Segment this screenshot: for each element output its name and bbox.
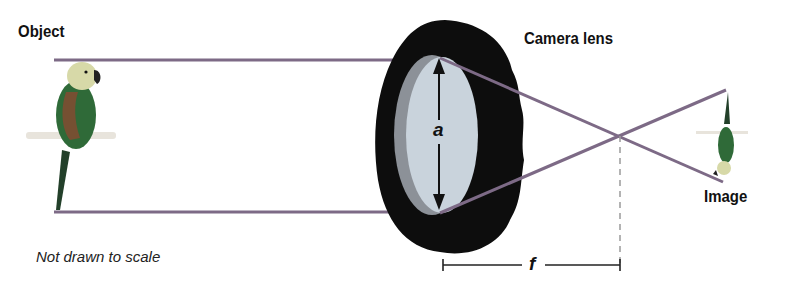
- camera-lens-diagram: Object Camera lens Image Not drawn to sc…: [0, 0, 788, 289]
- camera-lens-label: Camera lens: [524, 29, 613, 49]
- object-label: Object: [18, 22, 65, 42]
- diagram-canvas: [0, 0, 788, 289]
- object-parrot-icon: [26, 62, 116, 210]
- image-label: Image: [704, 187, 747, 207]
- aperture-variable-label: a: [433, 119, 444, 141]
- image-parrot-icon: [696, 92, 748, 176]
- focal-length-variable-label: f: [529, 253, 535, 275]
- not-to-scale-note: Not drawn to scale: [36, 248, 160, 265]
